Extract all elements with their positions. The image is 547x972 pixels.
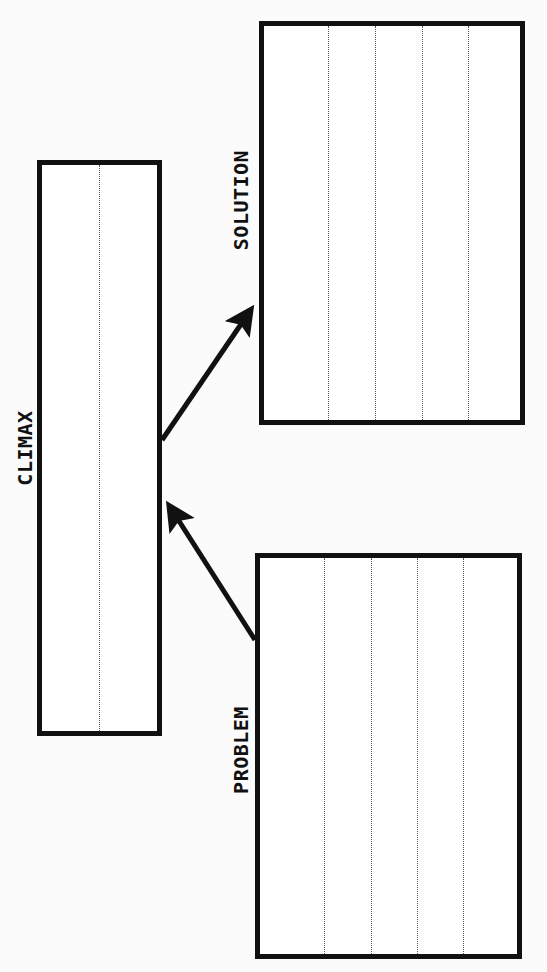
arrow-climax-to-solution [162, 311, 250, 440]
arrows-layer [0, 0, 547, 972]
arrow-problem-to-climax [170, 507, 255, 640]
